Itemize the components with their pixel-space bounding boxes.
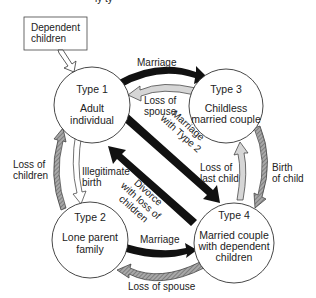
label-loss-of-last-child-line2: last child — [200, 173, 239, 184]
node-type3: Type 3 Childless married couple — [189, 69, 263, 143]
label-illegitimate-line2: birth — [82, 177, 101, 188]
node-type4: Type 4 Married couple with dependent chi… — [194, 203, 274, 283]
type2-line1: Lone parent — [62, 231, 118, 243]
label-marriage-top: Marriage — [137, 57, 177, 68]
label-loss-of-spouse-bottom: Loss of spouse — [128, 281, 196, 292]
label-loss-of-children-line2: children — [13, 170, 48, 181]
type2-line2: family — [76, 243, 104, 255]
family-type-diagram: ly ty Dependent children Marriage Loss o… — [0, 0, 316, 298]
arrow-loss-of-last-child — [234, 142, 248, 200]
type3-title: Type 3 — [210, 83, 242, 95]
label-marriage-bottom: Marriage — [140, 234, 180, 245]
arrow-loss-of-spouse-bottom — [117, 262, 204, 281]
node-type1: Type 1 Adult individual — [54, 67, 130, 143]
type3-line2: married couple — [191, 113, 261, 125]
dependent-children-arrow — [58, 50, 76, 72]
label-loss-of-last-child-line1: Loss of — [200, 162, 232, 173]
type1-title: Type 1 — [76, 83, 108, 95]
type4-line3: children — [216, 251, 253, 263]
dependent-children-box: Dependent children — [24, 17, 87, 50]
type1-line1: Adult — [80, 102, 104, 114]
node-type2: Type 2 Lone parent family — [52, 202, 128, 278]
arrow-birth-of-child — [254, 126, 268, 208]
type2-title: Type 2 — [74, 211, 106, 223]
arrow-loss-of-children — [54, 128, 66, 210]
label-birth-of-child-line2: of child — [272, 173, 304, 184]
arrow-marriage-t2-t4 — [126, 243, 197, 258]
type4-title: Type 4 — [218, 209, 250, 221]
title-fragment: ly ty — [95, 0, 113, 4]
label-birth-of-child-line1: Birth — [272, 162, 293, 173]
label-loss-of-children-line1: Loss of — [13, 159, 45, 170]
label-loss-of-spouse-line1: Loss of — [144, 95, 176, 106]
label-illegitimate-line1: Illegitimate — [82, 166, 130, 177]
type1-line2: individual — [70, 114, 114, 126]
dependent-children-line1: Dependent — [31, 22, 80, 33]
dependent-children-line2: children — [31, 33, 66, 44]
